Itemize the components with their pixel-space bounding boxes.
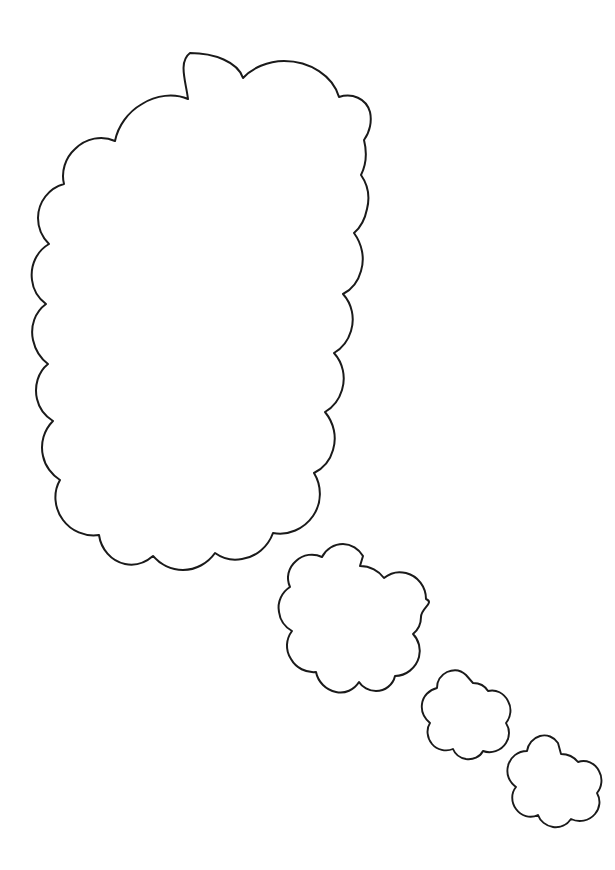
coloring-page-canvas — [0, 0, 615, 870]
thought-bubble-artwork — [0, 0, 615, 870]
